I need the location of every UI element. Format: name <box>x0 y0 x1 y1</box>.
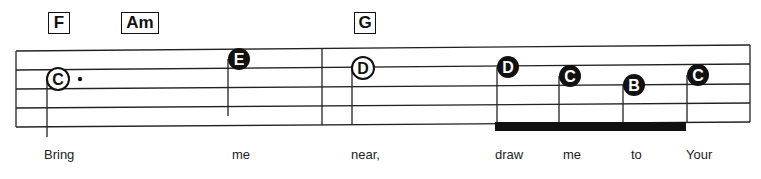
note-c: C <box>47 68 82 90</box>
lyric-word: to <box>631 147 642 162</box>
dot <box>78 77 82 81</box>
svg-text:E: E <box>234 51 245 68</box>
svg-text:C: C <box>52 71 64 88</box>
lyric-word: me <box>232 147 250 162</box>
note-c: C <box>559 65 581 87</box>
lyric-word: Bring <box>44 147 74 162</box>
note-b: B <box>623 74 645 96</box>
beam <box>495 122 686 131</box>
lyric-word: draw <box>495 147 523 162</box>
note-d: D <box>497 56 519 78</box>
lyric-word: me <box>563 147 581 162</box>
note-c: C <box>687 64 709 86</box>
note-d: D <box>352 57 374 79</box>
svg-text:C: C <box>692 67 704 84</box>
lyric-word: near, <box>351 147 380 162</box>
svg-text:D: D <box>357 60 369 77</box>
lyric-word: Your <box>686 147 712 162</box>
svg-text:D: D <box>502 59 514 76</box>
note-e: E <box>228 48 250 70</box>
svg-text:B: B <box>628 77 640 94</box>
music-staff: CEDDCBC <box>0 0 761 179</box>
svg-text:C: C <box>564 68 576 85</box>
